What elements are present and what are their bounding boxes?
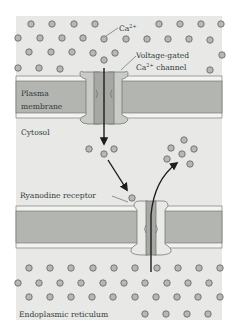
er-label: Endoplasmic reticulum: [19, 310, 108, 319]
voltage-channel-label-line1: Voltage-gated: [135, 51, 189, 60]
cytosol-label: Cytosol: [21, 128, 50, 137]
diagram-canvas: Ca2+ Voltage-gated Ca2+ channel Plasma m…: [0, 0, 236, 336]
diagram-background: [16, 16, 222, 320]
plasma-membrane-label-line1: Plasma: [21, 89, 49, 98]
er-membrane: [16, 206, 222, 248]
voltage-channel-label-line2: Ca2+ channel: [136, 62, 187, 72]
ca-ion-bound-ryr: [129, 195, 135, 201]
ryanodine-receptor-label: Ryanodine receptor: [20, 191, 96, 200]
plasma-membrane-label-line2: membrane: [21, 102, 63, 111]
